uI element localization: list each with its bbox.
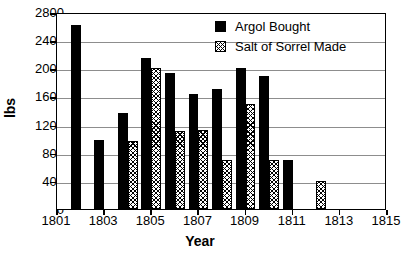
legend: Argol Bought Salt of Sorrel Made (215, 18, 346, 58)
x-axis-tick-label: 1807 (174, 214, 220, 228)
bar (236, 68, 246, 209)
legend-label: Argol Bought (235, 20, 310, 33)
bar (222, 160, 232, 209)
x-axis-tick-mark (245, 210, 247, 215)
x-axis-title-text: Year (185, 233, 215, 249)
x-axis-tick-label: 1803 (80, 214, 126, 228)
bar (141, 58, 151, 209)
x-axis-tick-label: 1801 (33, 214, 79, 228)
bar (212, 89, 222, 209)
legend-label: Salt of Sorrel Made (235, 40, 346, 53)
x-axis-tick-mark (292, 210, 294, 215)
x-axis-title: Year (0, 233, 400, 249)
bar (128, 141, 138, 209)
x-axis-tick-label: 1813 (316, 214, 362, 228)
x-axis-tick-label: 1815 (363, 214, 405, 228)
bar (189, 94, 199, 209)
bar (259, 76, 269, 209)
legend-swatch-solid-icon (215, 21, 226, 32)
bar (198, 130, 208, 209)
legend-item-argol-bought: Argol Bought (215, 18, 346, 35)
x-axis-tick-mark (56, 210, 58, 215)
bar (151, 68, 161, 209)
bar (71, 25, 81, 209)
x-axis-tick-mark (197, 210, 199, 215)
bar (175, 131, 185, 209)
bar (316, 181, 326, 209)
x-axis-tick-label: 1811 (269, 214, 315, 228)
legend-swatch-hatch-icon (215, 41, 226, 52)
x-axis-tick-mark (150, 210, 152, 215)
legend-item-salt-of-sorrel-made: Salt of Sorrel Made (215, 38, 346, 55)
y-axis-title-text: lbs (2, 98, 18, 118)
bar (269, 160, 279, 209)
x-axis-tick-label: 1809 (222, 214, 268, 228)
y-axis-title: lbs (2, 86, 18, 130)
bar (94, 140, 104, 209)
bar (118, 113, 128, 209)
bar (246, 104, 256, 209)
x-axis-tick-mark (386, 210, 388, 215)
x-axis-tick-label: 1805 (127, 214, 173, 228)
x-axis-tick-mark (339, 210, 341, 215)
bar (283, 160, 293, 209)
bar (165, 73, 175, 209)
x-axis-tick-mark (103, 210, 105, 215)
